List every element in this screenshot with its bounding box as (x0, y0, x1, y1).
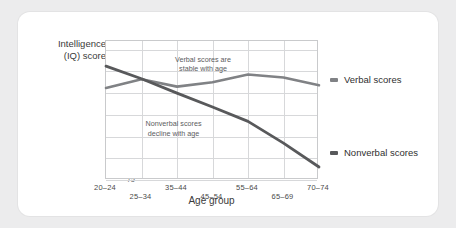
legend-swatch-verbal-icon (330, 78, 338, 82)
x-axis-title: Age group (105, 195, 318, 206)
y-axis-title: Intelligence (IQ) score (30, 38, 106, 62)
legend-label-nonverbal: Nonverbal scores (344, 147, 418, 158)
verbal-annotation-line1: Verbal scores are (175, 55, 231, 65)
nonverbal-annotation-line1: Nonverbal scores (146, 119, 202, 129)
x-tick-label: 35–44 (165, 183, 187, 192)
verbal-annotation: Verbal scores are stable with age (175, 55, 231, 74)
legend-item-verbal: Verbal scores (330, 74, 402, 85)
gridline-y (106, 180, 317, 181)
y-axis-title-line2: (IQ) score (30, 50, 106, 62)
legend-item-nonverbal: Nonverbal scores (330, 147, 418, 158)
plot-area: Verbal scores are stable with age Nonver… (105, 40, 318, 179)
x-tick-label: 55–64 (236, 183, 258, 192)
iq-by-age-line-chart: Intelligence (IQ) score 1051009590858075… (18, 12, 438, 216)
y-axis-title-line1: Intelligence (30, 38, 106, 50)
verbal-annotation-line2: stable with age (175, 64, 231, 74)
legend-swatch-nonverbal-icon (330, 151, 338, 155)
x-tick-label: 70–74 (307, 183, 329, 192)
nonverbal-annotation: Nonverbal scores decline with age (146, 119, 202, 138)
legend-label-verbal: Verbal scores (344, 74, 402, 85)
chart-card: Intelligence (IQ) score 1051009590858075… (18, 12, 438, 216)
x-tick-label: 20–24 (94, 183, 116, 192)
nonverbal-annotation-line2: decline with age (146, 129, 202, 139)
